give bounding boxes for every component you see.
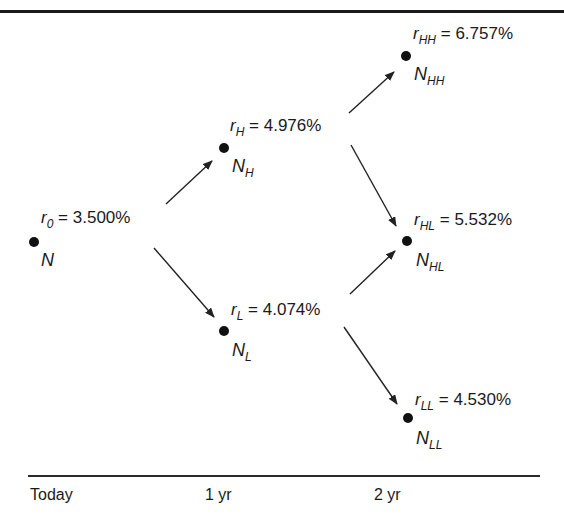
node-HH-dot (401, 51, 411, 61)
node-root-dot (29, 237, 39, 247)
node-LL-rate: rLL = 4.530% (415, 390, 511, 410)
arrow-root-to-H (166, 161, 212, 204)
axis-label-today: Today (30, 486, 73, 504)
node-LL-label: NLL (416, 428, 442, 448)
node-H-rate: rH = 4.976% (230, 116, 321, 136)
node-H-dot (219, 143, 229, 153)
tree-arrows (0, 0, 564, 530)
arrow-root-to-L (154, 248, 214, 317)
node-root-label: N (41, 250, 54, 270)
node-HL-rate: rHL = 5.532% (414, 210, 512, 230)
node-L-rate: rL = 4.074% (231, 300, 320, 320)
node-HH-label: NHH (414, 64, 444, 84)
arrow-H-to-HH (349, 72, 394, 113)
node-L-dot (219, 326, 229, 336)
node-L-label: NL (232, 340, 252, 360)
arrow-L-to-HL (350, 251, 395, 294)
node-HL-label: NHL (416, 250, 444, 270)
axis-label-2yr: 2 yr (374, 486, 401, 504)
node-root-rate: r0 = 3.500% (41, 208, 130, 228)
axis-label-1yr: 1 yr (205, 486, 232, 504)
node-H-label: NH (232, 156, 254, 176)
time-axis-line (28, 475, 540, 477)
arrow-L-to-LL (344, 327, 397, 404)
node-LL-dot (403, 413, 413, 423)
node-HL-dot (402, 236, 412, 246)
node-HH-rate: rHH = 6.757% (413, 24, 513, 44)
arrow-H-to-HL (351, 145, 396, 226)
